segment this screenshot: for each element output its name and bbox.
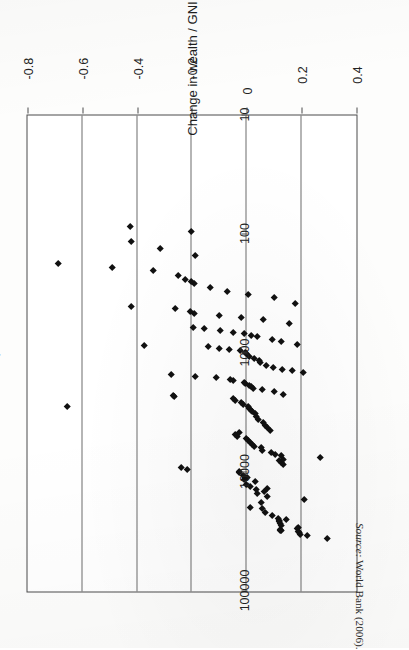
source-text: World Bank (2006). — [354, 560, 366, 650]
data-point — [201, 325, 207, 331]
data-point — [283, 516, 289, 522]
data-point — [300, 369, 306, 375]
data-point — [248, 331, 254, 337]
data-point — [241, 330, 247, 336]
value-axis-title: Change in wealth / GNI — [185, 1, 200, 135]
data-point — [216, 344, 222, 350]
log-tick-label: 10000 — [237, 454, 251, 489]
data-point — [246, 503, 252, 509]
value-tick-label: 0.2 — [295, 66, 309, 84]
data-point — [258, 386, 264, 392]
data-point — [150, 267, 156, 273]
data-point — [280, 390, 286, 396]
data-point — [240, 379, 246, 385]
data-point — [223, 288, 229, 294]
data-point — [278, 365, 284, 371]
data-point — [213, 374, 219, 380]
data-point — [187, 307, 193, 313]
value-tick-label: -0.8 — [21, 57, 35, 79]
data-point — [292, 300, 298, 306]
value-tick-label: 0.4 — [350, 66, 364, 84]
value-tick — [301, 107, 302, 113]
data-point — [252, 478, 258, 484]
data-point — [254, 333, 260, 339]
data-point — [205, 343, 211, 349]
data-point — [216, 312, 222, 318]
data-point — [175, 271, 181, 277]
data-point — [171, 305, 177, 311]
log-tick-label: 100 — [237, 223, 251, 244]
data-point — [258, 499, 264, 505]
data-point — [271, 294, 277, 300]
data-point — [178, 463, 184, 469]
data-point — [128, 238, 134, 244]
data-point — [260, 316, 266, 322]
data-point — [127, 222, 133, 228]
data-point — [288, 367, 294, 373]
data-point — [217, 327, 223, 333]
log-tick-label: 10 — [237, 107, 251, 121]
data-point — [238, 314, 244, 320]
data-point — [207, 284, 213, 290]
value-tick — [137, 107, 138, 113]
value-tick — [356, 107, 357, 113]
data-point — [303, 532, 309, 538]
value-tick-label: -0.4 — [131, 57, 145, 79]
value-tick — [27, 107, 28, 113]
data-point — [294, 341, 300, 347]
value-tick-label: -0.6 — [76, 57, 90, 79]
log-tick-label: 100000 — [237, 569, 251, 611]
data-point — [271, 388, 277, 394]
data-point — [229, 328, 235, 334]
data-point — [192, 252, 198, 258]
data-point — [286, 320, 292, 326]
data-point — [168, 371, 174, 377]
data-point — [225, 345, 231, 351]
plot-frame — [26, 114, 357, 592]
data-point — [64, 403, 70, 409]
data-point — [245, 291, 251, 297]
value-tick-label: 0 — [240, 87, 254, 94]
source-label: Source: — [354, 523, 366, 557]
log-tick-label: 1000 — [237, 338, 251, 366]
data-point — [269, 363, 275, 369]
data-point — [301, 496, 307, 502]
data-point — [324, 535, 330, 541]
data-point — [192, 372, 198, 378]
data-point — [277, 338, 283, 344]
data-point — [128, 302, 134, 308]
data-point — [188, 228, 194, 234]
data-point — [190, 323, 196, 329]
data-point — [181, 276, 187, 282]
data-point — [269, 336, 275, 342]
data-point — [54, 260, 60, 266]
scatter-points — [27, 115, 356, 591]
data-point — [317, 454, 323, 460]
data-point — [109, 264, 115, 270]
value-tick — [82, 107, 83, 113]
data-point — [157, 244, 163, 250]
data-point — [140, 342, 146, 348]
data-point — [264, 484, 270, 490]
